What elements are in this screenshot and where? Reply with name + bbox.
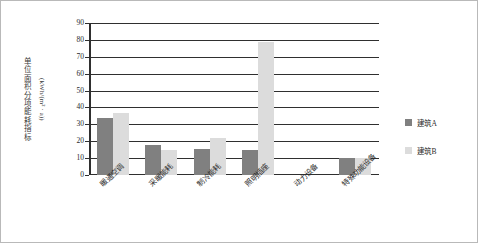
bar-group	[89, 23, 137, 175]
y-axis-tick-label: 70	[77, 53, 85, 61]
y-axis-tick-label: 40	[77, 104, 85, 112]
y-axis-tick	[85, 175, 89, 176]
y-axis-tick-label: 60	[77, 70, 85, 78]
y-axis-label-group: 单位面积分项能耗指标 (kWh/(m² · a))	[19, 19, 65, 179]
y-axis-tick-label: 50	[77, 87, 85, 95]
bar-group	[234, 23, 282, 175]
bar-group	[137, 23, 185, 175]
bar	[258, 42, 274, 175]
x-axis-category-labels: 暖通空调采暖能耗制冷能耗照明插座动力设备特殊功能设备	[89, 177, 379, 239]
plot-area: 0102030405060708090	[89, 23, 379, 175]
bar-group	[282, 23, 330, 175]
legend-item[interactable]: 建筑B	[405, 145, 475, 156]
y-axis-tick-label: 20	[77, 137, 85, 145]
legend-swatch	[405, 147, 412, 154]
y-axis-unit: (kWh/(m² · a))	[38, 19, 46, 179]
y-axis-tick-label: 30	[77, 121, 85, 129]
y-axis-title: 单位面积分项能耗指标	[21, 19, 32, 179]
bar-groups	[89, 23, 379, 175]
bar-group	[186, 23, 234, 175]
legend-swatch	[405, 119, 412, 126]
y-axis-tick-label: 90	[77, 19, 85, 27]
legend-label: 建筑B	[417, 145, 437, 156]
chart-figure: 单位面积分项能耗指标 (kWh/(m² · a)) 01020304050607…	[0, 0, 478, 243]
legend-item[interactable]: 建筑A	[405, 117, 475, 128]
chart-legend: 建筑A建筑B	[405, 117, 475, 173]
y-axis-tick-label: 80	[77, 36, 85, 44]
y-axis-tick-label: 10	[77, 154, 85, 162]
legend-label: 建筑A	[417, 117, 437, 128]
y-axis-tick-label: 0	[80, 171, 84, 179]
